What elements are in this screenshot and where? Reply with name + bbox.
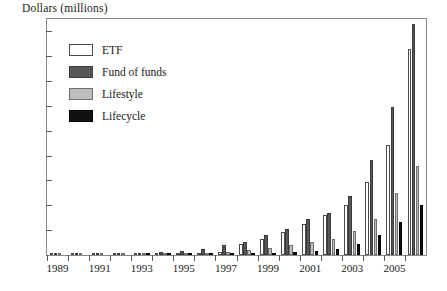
x-tick-label: 1989 xyxy=(47,262,69,274)
x-tick-mark xyxy=(173,255,174,261)
legend-label-etf: ETF xyxy=(102,44,122,56)
x-tick-mark xyxy=(215,255,216,261)
legend-label-fof: Fund of funds xyxy=(102,66,167,78)
x-tick-mark xyxy=(279,255,280,261)
bar-chart: Dollars (millions) 501001502002503003504… xyxy=(0,0,447,291)
legend-swatch-etf xyxy=(69,44,93,56)
x-tick-mark xyxy=(131,255,132,261)
bar-lifecycle xyxy=(420,205,424,255)
x-tick-mark xyxy=(194,255,195,261)
x-tick-mark xyxy=(258,255,259,261)
x-tick-label: 1999 xyxy=(257,262,279,274)
x-tick-mark xyxy=(68,255,69,261)
x-tick-mark xyxy=(89,255,90,261)
legend-label-lifestyle: Lifestyle xyxy=(102,88,143,100)
x-tick-label: 2001 xyxy=(299,262,321,274)
x-tick-label: 1993 xyxy=(131,262,153,274)
bar-fof xyxy=(412,24,416,255)
bar-etf xyxy=(408,49,412,255)
legend-item-fof: Fund of funds xyxy=(69,63,167,81)
x-tick-label: 2003 xyxy=(341,262,363,274)
legend-label-lifecycle: Lifecycle xyxy=(102,110,145,122)
y-axis-title: Dollars (millions) xyxy=(22,2,108,14)
x-tick-label: 2005 xyxy=(383,262,405,274)
x-tick-mark xyxy=(152,255,153,261)
legend-item-lifestyle: Lifestyle xyxy=(69,85,167,103)
x-tick-label: 1995 xyxy=(173,262,195,274)
legend-swatch-lifecycle xyxy=(69,110,93,122)
x-tick-mark xyxy=(321,255,322,261)
chart-legend: ETFFund of fundsLifestyleLifecycle xyxy=(69,41,167,129)
x-tick-mark xyxy=(363,255,364,261)
legend-swatch-lifestyle xyxy=(69,88,93,100)
x-tick-mark xyxy=(110,255,111,261)
legend-swatch-fof xyxy=(69,66,93,78)
x-tick-mark xyxy=(384,255,385,261)
x-tick-label: 1991 xyxy=(89,262,111,274)
x-tick-mark xyxy=(47,255,48,261)
x-tick-label: 1997 xyxy=(215,262,237,274)
legend-item-lifecycle: Lifecycle xyxy=(69,107,167,125)
x-tick-mark xyxy=(405,255,406,261)
x-tick-mark xyxy=(342,255,343,261)
x-tick-mark xyxy=(237,255,238,261)
bar-lifestyle xyxy=(416,166,420,255)
x-tick-mark xyxy=(300,255,301,261)
legend-item-etf: ETF xyxy=(69,41,167,59)
